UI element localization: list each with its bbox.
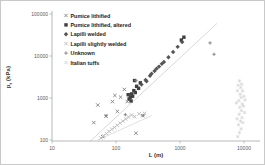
square-marker xyxy=(131,95,134,98)
trendline-1 xyxy=(98,116,152,140)
asterisk-marker xyxy=(236,135,239,138)
plus-marker xyxy=(124,113,127,116)
asterisk-marker xyxy=(241,89,244,92)
asterisk-marker xyxy=(240,116,243,119)
y-axis-title: pt (kPa) xyxy=(5,42,13,112)
legend-item-3: Lapilli slightly welded xyxy=(64,41,126,47)
series-4 xyxy=(104,41,215,117)
x-marker xyxy=(121,119,124,122)
asterisk-marker xyxy=(237,113,240,116)
asterisk-marker xyxy=(240,83,243,86)
legend-label: Lapilli welded xyxy=(71,31,106,37)
x-axis-title: L (m) xyxy=(52,152,260,158)
asterisk-marker xyxy=(238,93,241,96)
y-axis-title-unit: (kPa) xyxy=(5,66,11,83)
asterisk-marker xyxy=(239,96,242,99)
asterisk-marker xyxy=(237,123,240,126)
asterisk-marker xyxy=(239,120,242,123)
x-marker xyxy=(64,42,67,45)
legend-label: Pumice lithified xyxy=(71,13,111,19)
x-tick-label: 10000 xyxy=(237,145,251,151)
x-tick-label: 10 xyxy=(49,145,55,151)
x-marker xyxy=(96,103,99,106)
diamond-marker xyxy=(166,55,170,59)
legend-label: Pumice lithified, altered xyxy=(71,22,132,28)
square-marker xyxy=(64,23,67,26)
asterisk-marker xyxy=(243,98,246,101)
asterisk-marker xyxy=(238,79,241,82)
x-marker xyxy=(116,110,119,113)
asterisk-marker xyxy=(243,111,246,114)
diamond-marker xyxy=(171,50,175,54)
x-marker xyxy=(110,128,113,131)
plus-marker xyxy=(208,41,211,44)
square-marker xyxy=(134,91,137,94)
y-tick-label: 1000 xyxy=(37,95,48,101)
y-axis-title-sub: t xyxy=(8,83,13,85)
diamond-marker xyxy=(175,45,179,49)
legend-item-5: Italian tuffs xyxy=(64,60,99,66)
x-marker xyxy=(134,132,137,135)
legend-label: Lapilli slightly welded xyxy=(71,41,127,47)
legend-item-2: Lapilli welded xyxy=(64,31,106,37)
diamond-marker xyxy=(64,32,68,36)
x-marker xyxy=(113,94,116,97)
legend-label: Italian tuffs xyxy=(71,60,100,66)
square-marker xyxy=(126,93,129,96)
x-marker xyxy=(64,14,67,17)
y-tick-label: 100000 xyxy=(31,11,48,17)
asterisk-marker xyxy=(239,127,242,130)
asterisk-marker xyxy=(235,117,238,120)
x-marker xyxy=(92,121,95,124)
x-marker xyxy=(116,124,119,127)
x-marker xyxy=(111,100,114,103)
series-2 xyxy=(139,40,184,87)
x-marker xyxy=(127,115,130,118)
scatter-chart-figure: 10100100010000100100010000100000 Pumice … xyxy=(0,0,265,165)
asterisk-marker xyxy=(241,121,244,124)
legend-item-4: Unknown xyxy=(64,50,94,56)
square-marker xyxy=(137,87,140,90)
asterisk-marker xyxy=(238,106,241,109)
data-points xyxy=(92,36,247,140)
x-tick-label: 1000 xyxy=(174,145,185,151)
x-marker xyxy=(119,95,122,98)
asterisk-marker xyxy=(64,61,67,64)
asterisk-marker xyxy=(238,131,241,134)
plot-canvas: 10100100010000100100010000100000 Pumice … xyxy=(1,1,264,164)
asterisk-marker xyxy=(240,109,243,112)
plus-marker xyxy=(64,51,67,54)
legend-item-1: Pumice lithified, altered xyxy=(64,22,131,28)
asterisk-marker xyxy=(236,89,239,92)
x-marker xyxy=(123,88,126,91)
y-tick-label: 100 xyxy=(40,137,49,143)
y-axis-title-main: p xyxy=(5,85,11,89)
legend-label: Unknown xyxy=(71,50,95,56)
y-tick-label: 10000 xyxy=(34,53,48,59)
x-marker xyxy=(130,113,133,116)
square-marker xyxy=(129,99,132,102)
x-tick-label: 100 xyxy=(112,145,121,151)
legend: Pumice lithifiedPumice lithified, altere… xyxy=(64,13,131,66)
asterisk-marker xyxy=(242,95,245,98)
legend-item-0: Pumice lithified xyxy=(64,13,110,19)
x-marker xyxy=(124,117,127,120)
series-5 xyxy=(235,79,247,138)
x-marker xyxy=(118,121,121,124)
tick-labels: 10100100010000100100010000100000 xyxy=(31,11,251,151)
x-marker xyxy=(137,112,140,115)
x-marker xyxy=(133,115,136,118)
plus-marker xyxy=(212,53,215,56)
square-marker xyxy=(182,36,185,39)
